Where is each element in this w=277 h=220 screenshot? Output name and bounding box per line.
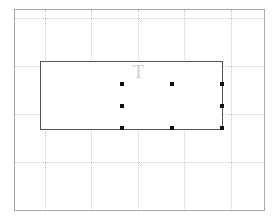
handle-middle-right[interactable]	[220, 104, 224, 108]
handle-top-left[interactable]	[120, 82, 124, 86]
text-box[interactable]: CRU T	[40, 61, 223, 130]
handle-middle-left[interactable]	[120, 104, 124, 108]
grid-line-horizontal	[15, 18, 264, 19]
handle-bottom-right[interactable]	[220, 126, 224, 130]
handle-bottom-left[interactable]	[120, 126, 124, 130]
grid-line-vertical	[231, 10, 232, 210]
handle-top-middle[interactable]	[170, 82, 174, 86]
grid-line-horizontal	[15, 162, 264, 163]
handle-top-right[interactable]	[220, 82, 224, 86]
handle-bottom-middle[interactable]	[170, 126, 174, 130]
text-box-overflow-text: T	[133, 62, 144, 82]
text-box-content[interactable]: CRU	[43, 61, 147, 116]
